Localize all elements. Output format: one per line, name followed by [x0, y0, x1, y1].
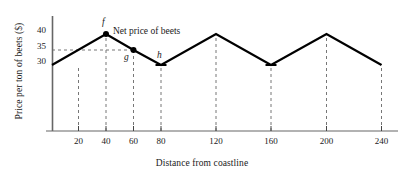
y-axis-title: Price per ton of beets ($) — [14, 11, 24, 131]
y-tick-label-35: 35 — [30, 41, 46, 51]
x-tick-label-120: 120 — [203, 136, 229, 146]
x-tick-label-200: 200 — [314, 136, 340, 146]
chart-plot-area — [0, 0, 404, 174]
point-label-h: h — [157, 50, 162, 60]
point-label-g: g — [124, 52, 129, 62]
marker-point-g — [131, 47, 137, 53]
point-label-f: f — [102, 17, 105, 27]
x-tick-label-80: 80 — [148, 136, 174, 146]
x-tick-label-240: 240 — [369, 136, 395, 146]
y-tick-label-40: 40 — [30, 25, 46, 35]
x-tick-label-60: 60 — [121, 136, 147, 146]
x-tick-label-20: 20 — [66, 136, 92, 146]
x-axis-ticks — [79, 126, 382, 131]
marker-point-f — [103, 31, 109, 37]
series-annotation-net-price-of-beets: Net price of beets — [113, 26, 180, 36]
x-tick-label-160: 160 — [258, 136, 284, 146]
vertical-gridlines — [79, 35, 382, 131]
y-tick-label-30: 30 — [30, 56, 46, 66]
x-axis-title: Distance from coastline — [0, 158, 404, 168]
x-tick-label-40: 40 — [93, 136, 119, 146]
chart-figure: Price per ton of beets ($) Distance from… — [0, 0, 404, 174]
